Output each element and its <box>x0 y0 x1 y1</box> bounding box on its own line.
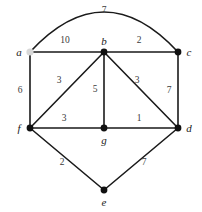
edge-weight-f-e: 2 <box>60 158 65 168</box>
vertex-label-d: d <box>186 123 192 134</box>
vertex-label-e: e <box>102 197 107 208</box>
vertex-f[interactable] <box>27 125 34 132</box>
vertex-b[interactable] <box>101 49 108 56</box>
vertex-label-f: f <box>17 123 20 134</box>
edge-weight-b-g: 5 <box>93 85 98 95</box>
edge-weight-c-d: 7 <box>167 86 172 96</box>
edge-f-e <box>30 128 104 190</box>
edge-weight-a-b: 10 <box>60 36 70 46</box>
vertex-label-a: a <box>16 47 22 58</box>
edge-weight-a-f: 6 <box>18 86 23 96</box>
vertex-d[interactable] <box>175 125 182 132</box>
vertex-g[interactable] <box>101 125 108 132</box>
vertex-c[interactable] <box>175 49 182 56</box>
weighted-graph-figure: 7102635373127abcfgde <box>0 0 202 212</box>
vertex-label-b: b <box>101 36 107 47</box>
vertex-a[interactable] <box>26 48 33 55</box>
edge-weight-a-c: 7 <box>102 6 107 16</box>
edge-weight-e-d: 7 <box>142 158 147 168</box>
vertex-label-g: g <box>101 135 107 146</box>
edge-weight-b-d: 3 <box>135 76 140 86</box>
edge-weight-b-f: 3 <box>57 76 62 86</box>
edge-weight-g-d: 1 <box>137 114 142 124</box>
edge-weight-b-c: 2 <box>137 36 142 46</box>
vertex-label-c: c <box>187 47 192 58</box>
vertex-e[interactable] <box>101 187 108 194</box>
graph-canvas <box>0 0 202 212</box>
edge-weight-f-g: 3 <box>62 114 67 124</box>
